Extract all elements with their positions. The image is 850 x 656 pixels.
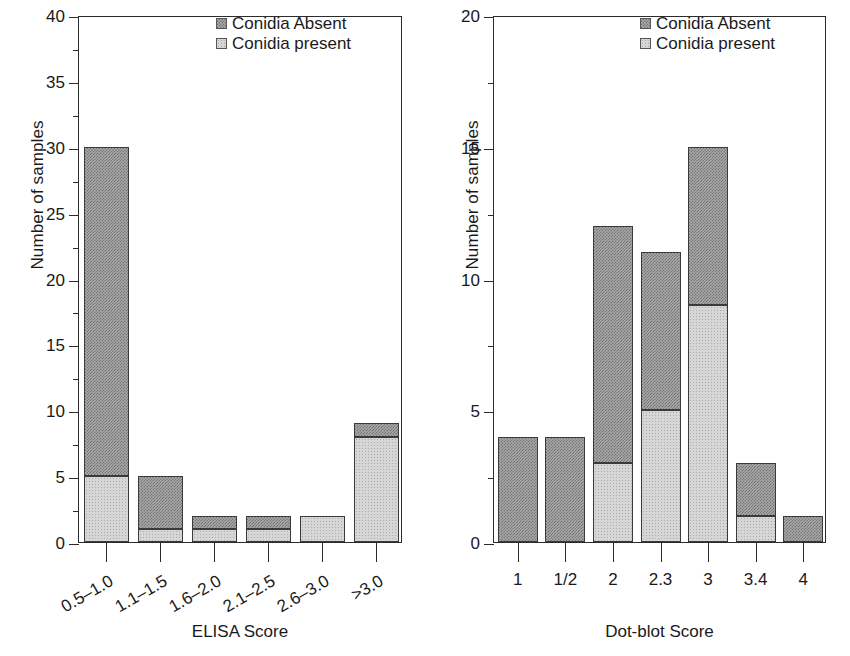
bar-segment-conidia-present: [138, 529, 183, 542]
legend-item-present: Conidia present: [640, 34, 775, 53]
y-tick-label: 35: [25, 73, 65, 93]
y-tick-label: 10: [440, 271, 480, 291]
y-tick-label: 20: [25, 271, 65, 291]
y-tick-label: 5: [440, 402, 480, 422]
legend-label-absent: Conidia Absent: [656, 14, 770, 33]
y-tick-major: [484, 17, 494, 18]
legend-swatch-present-icon: [216, 38, 227, 49]
y-tick-major: [69, 215, 79, 216]
x-tick: [803, 542, 804, 562]
legend-label-absent: Conidia Absent: [232, 14, 346, 33]
y-tick-minor: [488, 346, 494, 347]
y-tick-label: 15: [440, 139, 480, 159]
y-tick-minor: [73, 116, 79, 117]
y-tick-major: [484, 149, 494, 150]
bar-1.6–2.0: [192, 516, 237, 542]
legend-label-present: Conidia present: [656, 34, 775, 53]
y-tick-minor: [488, 478, 494, 479]
bar-segment-conidia-absent: [138, 476, 183, 529]
bar-3: [688, 147, 728, 542]
x-axis-title-left: ELISA Score: [78, 622, 402, 642]
bar-segment-conidia-absent: [593, 226, 633, 463]
legend-dotblot: Conidia Absent Conidia present: [640, 14, 775, 53]
y-tick-minor: [73, 50, 79, 51]
bar-2: [593, 226, 633, 542]
y-tick-label: 30: [25, 139, 65, 159]
bar-1/2: [545, 437, 585, 542]
bar-2.1–2.5: [246, 516, 291, 542]
bar-segment-conidia-absent: [783, 516, 823, 542]
y-tick-label: 5: [25, 468, 65, 488]
bar-segment-conidia-absent: [736, 463, 776, 516]
y-tick-major: [69, 17, 79, 18]
bar-segment-conidia-present: [84, 476, 129, 542]
legend-swatch-present-icon: [640, 38, 651, 49]
bar-segment-conidia-absent: [545, 437, 585, 542]
y-tick-minor: [73, 511, 79, 512]
y-tick-label: 15: [25, 336, 65, 356]
x-tick: [518, 542, 519, 562]
chart-panel-dotblot: Number of samples 0510152011/222.333.44 …: [425, 0, 850, 656]
x-tick: [376, 542, 377, 562]
legend-item-absent: Conidia Absent: [640, 14, 775, 33]
bar-1.1–1.5: [138, 476, 183, 542]
x-tick: [268, 542, 269, 562]
bar-segment-conidia-absent: [246, 516, 291, 529]
bar-segment-conidia-present: [354, 437, 399, 542]
x-tick: [322, 542, 323, 562]
y-tick-major: [484, 412, 494, 413]
legend-swatch-absent-icon: [640, 18, 651, 29]
bar-segment-conidia-absent: [641, 252, 681, 410]
y-tick-major: [69, 412, 79, 413]
bar-segment-conidia-present: [688, 305, 728, 542]
plot-area-elisa: 05101520253035400.5–1.01.1–1.51.6–2.02.1…: [78, 16, 402, 543]
bar-segment-conidia-present: [300, 516, 345, 542]
y-tick-major: [484, 544, 494, 545]
legend-item-absent: Conidia Absent: [216, 14, 351, 33]
bar-2.6–3.0: [300, 516, 345, 542]
x-tick: [708, 542, 709, 562]
bar-0.5–1.0: [84, 147, 129, 542]
x-tick: [565, 542, 566, 562]
y-tick-major: [69, 544, 79, 545]
y-tick-label: 40: [25, 7, 65, 27]
y-tick-minor: [488, 215, 494, 216]
y-tick-major: [484, 281, 494, 282]
bar-2.3: [641, 252, 681, 542]
bar-3.4: [736, 463, 776, 542]
x-tick: [160, 542, 161, 562]
x-tick: [661, 542, 662, 562]
y-tick-major: [69, 83, 79, 84]
x-tick: [106, 542, 107, 562]
x-tick-label: 4: [763, 570, 843, 590]
bar-segment-conidia-present: [192, 529, 237, 542]
y-tick-minor: [73, 379, 79, 380]
bar-segment-conidia-absent: [354, 423, 399, 436]
y-tick-minor: [73, 445, 79, 446]
y-tick-major: [69, 478, 79, 479]
bar-segment-conidia-absent: [84, 147, 129, 476]
chart-panel-elisa: Number of samples 05101520253035400.5–1.…: [0, 0, 425, 656]
legend-label-present: Conidia present: [232, 34, 351, 53]
y-tick-minor: [73, 182, 79, 183]
y-tick-label: 25: [25, 205, 65, 225]
bar->3.0: [354, 423, 399, 542]
legend-item-present: Conidia present: [216, 34, 351, 53]
bar-segment-conidia-present: [593, 463, 633, 542]
bar-segment-conidia-absent: [688, 147, 728, 305]
plot-area-dotblot: 0510152011/222.333.44: [493, 16, 826, 543]
x-axis-title-right: Dot-blot Score: [493, 622, 826, 642]
x-tick: [613, 542, 614, 562]
bar-4: [783, 516, 823, 542]
y-tick-minor: [73, 248, 79, 249]
y-tick-minor: [488, 83, 494, 84]
y-tick-minor: [73, 313, 79, 314]
y-tick-label: 10: [25, 402, 65, 422]
y-tick-label: 0: [25, 534, 65, 554]
legend-elisa: Conidia Absent Conidia present: [216, 14, 351, 53]
x-tick: [214, 542, 215, 562]
y-tick-label: 0: [440, 534, 480, 554]
x-tick: [756, 542, 757, 562]
y-tick-major: [69, 149, 79, 150]
bar-segment-conidia-present: [246, 529, 291, 542]
